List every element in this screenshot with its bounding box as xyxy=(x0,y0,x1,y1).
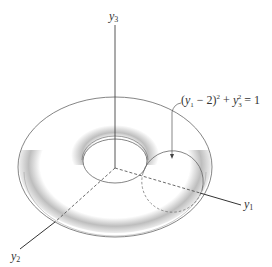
torus-figure xyxy=(0,0,272,267)
y1-axis xyxy=(200,193,241,205)
torus-equation-label: (y1 − 2)2 + y32 = 1 xyxy=(181,94,260,109)
y2-axis xyxy=(20,222,55,249)
y1-axis-label: y1 xyxy=(244,198,253,212)
y2-axis-label: y2 xyxy=(11,250,20,264)
y3-axis-label: y3 xyxy=(109,10,118,24)
